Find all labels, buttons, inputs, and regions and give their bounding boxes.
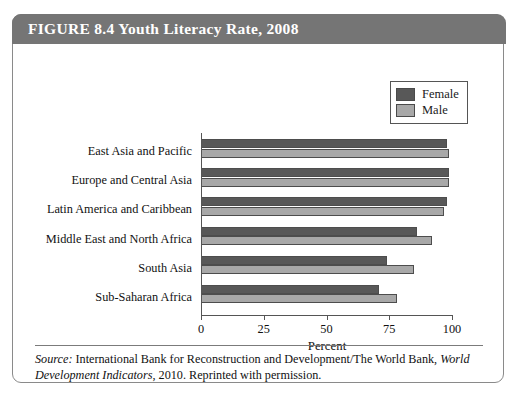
y-axis-line [201,133,202,317]
x-axis-tick-label: 75 [383,322,395,337]
x-axis-tick [452,315,453,320]
x-axis-tick [201,315,202,320]
source-note: Source: International Bank for Reconstru… [35,351,487,383]
bar-group [201,283,452,312]
category-label: Middle East and North Africa [13,225,199,254]
x-axis-tick [264,315,265,320]
category-label: Latin America and Caribbean [13,195,199,224]
category-label: East Asia and Pacific [13,137,199,166]
source-divider [35,345,483,346]
bars-region [201,137,452,313]
chart-plot-area: Female Male East Asia and PacificEurope … [13,45,505,341]
bar-male [201,265,414,274]
bar-group [201,137,452,166]
bar-group [201,225,452,254]
bar-male [201,178,449,187]
figure-card: FIGURE 8.4 Youth Literacy Rate, 2008 Fem… [12,14,504,383]
bar-group [201,195,452,224]
source-text-2: , 2010. Reprinted with permission. [152,368,321,382]
bar-female [201,168,449,177]
category-label: Sub-Saharan Africa [13,283,199,312]
bar-female [201,139,447,148]
x-axis-tick [327,315,328,320]
x-axis-tick-label: 25 [258,322,270,337]
x-axis-tick [389,315,390,320]
bar-chart: East Asia and PacificEurope and Central … [13,45,505,341]
bar-male [201,294,397,303]
source-prefix: Source: [35,352,72,366]
figure-title-bar: FIGURE 8.4 Youth Literacy Rate, 2008 [12,14,506,44]
bar-male [201,236,432,245]
category-label: South Asia [13,254,199,283]
bar-male [201,149,449,158]
bar-female [201,227,417,236]
bar-female [201,256,387,265]
x-axis-tick-label: 100 [443,322,461,337]
bar-group [201,254,452,283]
bar-male [201,207,444,216]
source-text-1: International Bank for Reconstruction an… [72,352,440,366]
bar-female [201,285,379,294]
category-label: Europe and Central Asia [13,166,199,195]
page-title: FIGURE 8.4 Youth Literacy Rate, 2008 [12,20,299,38]
x-axis-tick-label: 0 [198,322,204,337]
category-axis-labels: East Asia and PacificEurope and Central … [13,137,199,312]
x-axis-tick-label: 50 [320,322,332,337]
bar-female [201,197,447,206]
bar-group [201,166,452,195]
